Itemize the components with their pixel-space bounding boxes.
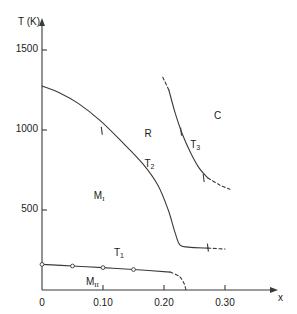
curve-T2-tickmark-2 bbox=[207, 244, 208, 252]
curve-T2-dashed-tail bbox=[208, 248, 225, 249]
region-label-m-i: MI bbox=[94, 191, 105, 203]
curve-T2-tickmark-1 bbox=[101, 127, 102, 135]
phase-diagram-figure: T (K) x 15001000500 00.100.200.30 MIMIIR… bbox=[0, 0, 297, 314]
y-tick-label-1500: 1500 bbox=[8, 44, 38, 54]
curve-T1-dashed-tail bbox=[170, 272, 186, 290]
data-point-T1-1 bbox=[40, 263, 44, 267]
curve-T3-dashed-head bbox=[163, 77, 169, 90]
data-point-T1-4 bbox=[132, 268, 136, 272]
y-tick-label-500: 500 bbox=[8, 204, 38, 214]
x-tick-label-0: 0 bbox=[27, 298, 57, 308]
x-tick-label-0.30: 0.30 bbox=[210, 298, 240, 308]
curve-T2 bbox=[42, 86, 208, 248]
curve-label-t3: T3 bbox=[190, 140, 200, 151]
y-axis-title: T (K) bbox=[18, 17, 40, 27]
x-tick-label-0.10: 0.10 bbox=[88, 298, 118, 308]
curve-label-t2: T2 bbox=[144, 159, 154, 170]
curve-T3-tickmark-2 bbox=[203, 174, 204, 182]
curve-T3-dashed-tail bbox=[208, 178, 230, 189]
data-point-T1-2 bbox=[71, 264, 75, 268]
data-point-T1-3 bbox=[101, 266, 105, 270]
curve-T1 bbox=[42, 264, 170, 272]
region-label-m-ii: MII bbox=[86, 277, 99, 289]
curve-T3 bbox=[169, 90, 208, 178]
x-tick-label-0.20: 0.20 bbox=[149, 298, 179, 308]
x-axis-arrow-icon bbox=[270, 287, 278, 293]
region-label-c: C bbox=[214, 111, 221, 121]
y-tick-label-1000: 1000 bbox=[8, 124, 38, 134]
curve-label-t1: T1 bbox=[114, 248, 124, 259]
region-label-r: R bbox=[144, 129, 151, 139]
x-axis-title: x bbox=[278, 293, 283, 303]
curve-T3-tickmark-1 bbox=[181, 128, 182, 136]
